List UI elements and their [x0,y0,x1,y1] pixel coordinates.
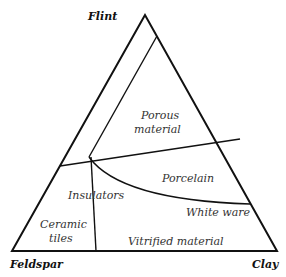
ternary-diagram: Flint Feldspar Clay Porous material Porc… [0,0,286,277]
insulators-line [91,157,96,251]
label-porcelain: Porcelain [161,172,214,185]
vertex-clay: Clay [252,258,280,271]
vertex-feldspar: Feldspar [9,258,64,271]
label-vitrified: Vitrified material [128,235,224,248]
label-ceramic: Ceramic [40,218,87,231]
label-material: material [134,123,181,136]
vertex-flint: Flint [87,10,117,23]
label-porous: Porous [140,109,180,122]
label-tiles: tiles [49,232,73,245]
label-white-ware: White ware [186,206,251,219]
porcelain-upper-line [60,139,240,166]
label-insulators: Insulators [67,189,125,202]
